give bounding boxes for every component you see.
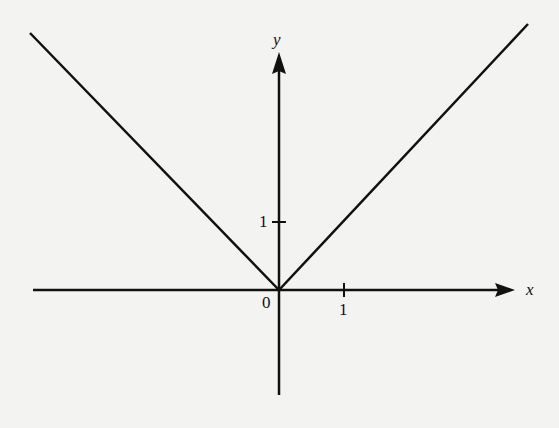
- origin-label: 0: [262, 293, 271, 313]
- x-axis-arrow-icon: [495, 283, 515, 297]
- y-axis-arrow-icon: [272, 52, 286, 74]
- plot: [0, 0, 559, 428]
- x-axis-label: x: [526, 280, 534, 300]
- y-axis-label: y: [273, 30, 281, 50]
- graph: y x 0 1 1: [0, 0, 559, 428]
- y-tick-label: 1: [259, 212, 268, 232]
- x-tick-label: 1: [339, 300, 348, 320]
